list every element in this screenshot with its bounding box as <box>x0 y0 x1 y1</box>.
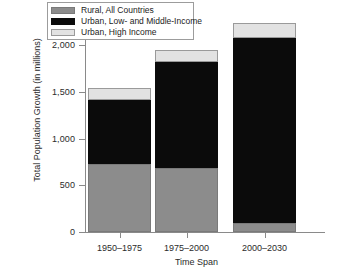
y-tick-mark <box>79 45 85 46</box>
y-tick-mark <box>79 232 85 233</box>
y-tick-mark <box>79 92 85 93</box>
bar-segment-rural <box>88 164 151 232</box>
legend-item-3: Urban, High Income <box>51 27 190 37</box>
bar-segment-urban-high-income <box>88 88 151 100</box>
x-axis-line <box>85 232 325 233</box>
bar-1 <box>88 88 151 232</box>
y-tick-label: 1,000 <box>15 135 75 144</box>
x-tick-label: 1975–2000 <box>147 243 227 253</box>
legend-item-label: Rural, All Countries <box>81 6 154 15</box>
x-axis-title: Time Span <box>0 257 345 267</box>
y-axis-title: Total Population Growth (in millions) <box>32 10 42 210</box>
x-tick-mark <box>265 233 266 238</box>
legend-swatch-icon <box>51 18 75 25</box>
y-tick-mark <box>79 185 85 186</box>
legend-item-label: Urban, Low- and Middle-Income <box>81 17 202 26</box>
legend-item-2: Urban, Low- and Middle-Income <box>51 16 190 26</box>
bar-segment-urban-low-middle-income <box>233 38 296 223</box>
bar-3 <box>233 23 296 232</box>
y-tick-label: 500 <box>15 181 75 190</box>
legend-item-label: Urban, High Income <box>81 28 157 37</box>
y-tick-label: 2,000 <box>15 41 75 50</box>
stacked-bar-chart: 2,0001,5001,0005000 Total Population Gro… <box>0 0 345 271</box>
bar-2 <box>155 50 218 232</box>
legend-item-1: Rural, All Countries <box>51 5 190 15</box>
bar-segment-rural <box>233 223 296 232</box>
chart-legend: Rural, All CountriesUrban, Low- and Midd… <box>47 2 194 40</box>
bar-segment-urban-low-middle-income <box>88 100 151 164</box>
x-tick-label: 2000–2030 <box>225 243 305 253</box>
bar-segment-rural <box>155 168 218 232</box>
y-tick-mark <box>79 139 85 140</box>
x-tick-mark <box>120 233 121 238</box>
legend-swatch-icon <box>51 29 75 36</box>
bar-segment-urban-low-middle-income <box>155 62 218 168</box>
x-tick-mark <box>187 233 188 238</box>
bar-segment-urban-high-income <box>155 50 218 62</box>
y-tick-label: 1,500 <box>15 88 75 97</box>
y-tick-label: 0 <box>15 228 75 237</box>
legend-swatch-icon <box>51 7 75 14</box>
bar-segment-urban-high-income <box>233 23 296 37</box>
